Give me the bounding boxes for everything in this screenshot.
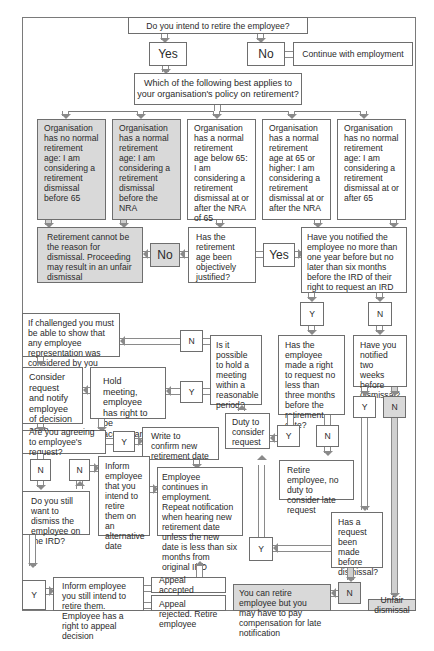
still-dismiss-yes-box: Y — [22, 580, 46, 610]
objectively-justified-text: Has the retirement age been objectively … — [196, 232, 236, 282]
write-confirm-box: Write to confirm new retirement date — [142, 427, 219, 460]
notified-question-box: Have you notified the employee no more t… — [301, 227, 407, 293]
appeal-accepted-box: Appeal accepted — [151, 577, 226, 593]
arrow-down-icon — [360, 506, 370, 511]
arrow-down-icon — [36, 485, 46, 490]
can-retire-compensation-text: You can retire employee but you may have… — [239, 588, 321, 638]
duty-to-consider-box: Duty to consider request — [225, 413, 270, 449]
objectively-justified-box: Has the retirement age been objectively … — [188, 227, 256, 283]
notified-two-weeks-box: Have you notified two weeks before dismi… — [353, 335, 407, 387]
appeal-rejected-text: Appeal rejected. Retire employee — [159, 599, 217, 629]
connector — [203, 338, 210, 345]
option-text: Organisation has no normal retirement ag… — [344, 123, 399, 203]
connector — [273, 545, 331, 552]
arrow-up-icon — [257, 455, 267, 460]
yes-text: Yes — [158, 49, 178, 59]
no-text: No — [258, 49, 273, 59]
agreeing-question-text: Are you agreeing to employee's request? — [29, 427, 99, 457]
option-text: Organisation has a normal retirement age… — [194, 123, 249, 223]
retire-question-text: Do you intend to retire the employee? — [146, 21, 289, 31]
connector — [203, 388, 210, 395]
connector — [106, 438, 113, 445]
policy-question-text: Which of the following best applies to y… — [137, 78, 299, 100]
inform-alternative-box: Inform employee that you intend to retir… — [98, 456, 150, 536]
no-justified-box: No — [150, 243, 180, 267]
duty-to-consider-text: Duty to consider request — [232, 417, 264, 447]
still-dismiss-box: Do you still want to dismiss the employe… — [22, 491, 90, 535]
n-text: N — [37, 465, 43, 475]
yes-box: Yes — [149, 42, 187, 66]
arrow-left-icon — [120, 336, 125, 346]
unfair-dismissal-box: Unfair dismissal — [368, 599, 416, 611]
notified-question-text: Have you notified the employee no more t… — [307, 232, 397, 292]
write-confirm-text: Write to confirm new retirement date — [151, 431, 209, 461]
unfair-dismissal-text: Unfair dismissal — [369, 595, 415, 615]
meeting-no-box: N — [180, 330, 203, 352]
arrow-left-icon — [270, 433, 275, 443]
arrow-left-icon — [331, 588, 336, 598]
y-text: Y — [309, 309, 315, 319]
appeal-accepted-text: Appeal accepted — [159, 575, 218, 595]
y-text: Y — [31, 590, 37, 600]
notified-yes-box: Y — [300, 302, 324, 326]
no-box: No — [247, 42, 285, 66]
request-before-no-box: N — [338, 582, 361, 604]
can-retire-compensation-box: You can retire employee but you may have… — [233, 584, 331, 611]
connector — [287, 415, 294, 425]
y-text: Y — [286, 431, 292, 441]
cannot-be-reason-box: Retirement cannot be the reason for dism… — [37, 227, 143, 283]
hold-meeting-question-box: Is it possible to hold a meeting within … — [210, 335, 262, 405]
yes-justified-box: Yes — [263, 243, 295, 267]
retire-no-duty-box: Retire employee, no duty to consider lat… — [279, 460, 354, 500]
request-yes-box: Y — [277, 425, 300, 447]
agreeing-question-box: Are you agreeing to employee's request? — [22, 430, 106, 454]
n-text: N — [76, 465, 82, 475]
arrow-left-icon — [273, 543, 278, 553]
no-text: No — [157, 250, 172, 260]
n-text: N — [324, 431, 330, 441]
arrow-down-icon — [28, 563, 38, 568]
agreeing-yes-box: Y — [113, 431, 135, 452]
arrow-down-icon — [323, 451, 333, 456]
arrow-left-icon — [180, 249, 185, 259]
arrow-up-icon — [237, 405, 247, 410]
option-nra-below-65: Organisation has a normal retirement age… — [187, 119, 256, 220]
arrow-left-icon — [83, 385, 88, 395]
connector — [144, 602, 151, 609]
option-no-nra-after-65: Organisation has no normal retirement ag… — [337, 119, 406, 220]
notified-no-box: N — [368, 302, 392, 326]
request-no-box: N — [316, 425, 339, 447]
option-no-nra-before-65: Organisation has no normal retirement ag… — [37, 119, 106, 220]
n-text: N — [188, 336, 194, 346]
request-before-dismissal-box: Has a request been made before dismissal… — [331, 512, 383, 568]
connector — [258, 465, 265, 537]
employee-continues-box: Employee continues in employment. Repeat… — [157, 467, 243, 536]
option-nra-before-nra: Organisation has a normal retirement age… — [112, 119, 181, 220]
option-text: Organisation has a normal retirement age… — [119, 123, 170, 213]
request-before-yes-box: Y — [249, 537, 273, 561]
if-challenged-box: If challenged you must be able to show t… — [22, 313, 120, 357]
continue-employment-text: Continue with employment — [302, 49, 403, 59]
connector — [144, 585, 151, 592]
n-text: N — [391, 402, 397, 412]
y-text: Y — [362, 402, 368, 412]
y-text: Y — [189, 387, 195, 397]
arrow-left-icon — [143, 249, 148, 259]
connector — [285, 51, 293, 58]
cannot-be-reason-text: Retirement cannot be the reason for dism… — [47, 232, 132, 282]
appeal-rejected-box: Appeal rejected. Retire employee — [151, 595, 226, 611]
request-before-dismissal-text: Has a request been made before dismissal… — [338, 517, 378, 577]
connector — [391, 418, 398, 595]
retire-question-box: Do you intend to retire the employee? — [128, 17, 308, 34]
option-text: Organisation has no normal retirement ag… — [44, 123, 98, 203]
connector — [324, 415, 331, 425]
option-nra-65-or-higher: Organisation has a normal retirement age… — [262, 119, 331, 220]
y-text: Y — [258, 544, 264, 554]
n-text: N — [377, 309, 383, 319]
hold-meeting-question-text: Is it possible to hold a meeting within … — [216, 340, 259, 410]
policy-question-box: Which of the following best applies to y… — [134, 73, 302, 105]
arrow-left-icon — [166, 386, 171, 396]
inform-alternative-text: Inform employee that you intend to retir… — [105, 461, 145, 551]
two-weeks-yes-box: Y — [353, 396, 376, 418]
arrow-up-icon — [75, 481, 85, 486]
